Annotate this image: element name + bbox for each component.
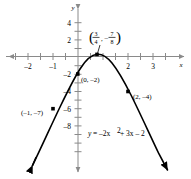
- point-label-origin: (0, –2): [81, 76, 100, 84]
- point-label-negone: (–1, –7): [21, 109, 44, 117]
- vertex-x-numerator: 3: [95, 31, 98, 37]
- point-label-two: (2, –4): [133, 93, 152, 101]
- vertex-close-paren: ): [116, 29, 121, 46]
- point-marker-0--2: [76, 72, 80, 76]
- x-tick-label--1: –1: [48, 62, 57, 71]
- x-axis-label: x: [178, 61, 183, 69]
- vertex-x-denominator: 4: [95, 39, 98, 45]
- y-axis-label: y: [70, 4, 75, 12]
- equation-tail: + 3x – 2: [120, 129, 145, 138]
- y-tick-label-2: 2: [67, 36, 71, 45]
- y-tick-label--6: –6: [63, 105, 72, 114]
- y-axis: [75, 9, 82, 172]
- x-tick-label--2: –2: [23, 62, 32, 71]
- graph-canvas: –2 –1 2 3 4 2 –2 –4 –6 –8 x y ( 3 4 , – …: [0, 0, 191, 179]
- vertex-y-minus: –: [104, 34, 109, 42]
- vertex-comma: ,: [101, 35, 103, 43]
- parabola-curve: [33, 54, 168, 170]
- x-tick-label-2: 2: [126, 62, 130, 71]
- equation-rest: = –2x: [93, 129, 111, 138]
- y-tick-label--2: –2: [63, 70, 72, 79]
- point-marker-vertex: [95, 53, 99, 57]
- parabola-left-arrowhead: [33, 158, 37, 166]
- point-marker-2--4: [126, 90, 130, 94]
- equation-label: y = –2x 2 + 3x – 2: [87, 126, 145, 139]
- y-tick-label--8: –8: [63, 122, 72, 131]
- vertex-y-numerator: 7: [111, 31, 114, 37]
- x-tick-label-3: 3: [151, 62, 155, 71]
- vertex-label: ( 3 4 , – 7 8 ): [89, 29, 121, 46]
- y-tick-label-4: 4: [67, 19, 71, 28]
- equation-y: y: [87, 129, 92, 138]
- vertex-y-denominator: 8: [111, 39, 114, 45]
- point-marker--1--7: [51, 107, 55, 111]
- parabola-figure: –2 –1 2 3 4 2 –2 –4 –6 –8 x y ( 3 4 , – …: [0, 0, 191, 179]
